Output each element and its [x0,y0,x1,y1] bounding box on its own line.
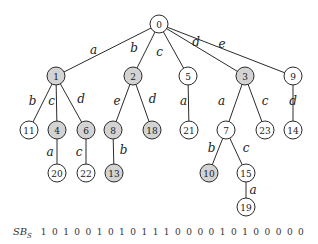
node-21: 21 [180,121,198,139]
node-label-5: 5 [185,72,191,82]
edge-label-0-9: e [218,37,225,51]
node-0: 0 [150,15,168,33]
bitstring-label: SBS [13,226,32,237]
edge-label-8-13: b [120,143,128,157]
edge-label-1-4: c [48,94,55,108]
edge-0-3 [159,24,245,76]
node-22: 22 [77,164,95,182]
node-8: 8 [104,121,122,139]
trie-diagram: abcdebcdedaacdacbbca 0125391146818217231… [0,0,318,244]
edge-labels-layer: abcdebcdedaacdacbbca [29,35,298,197]
node-label-14: 14 [287,126,299,136]
node-label-20: 20 [51,169,63,179]
node-label-10: 10 [203,169,215,179]
node-label-11: 11 [23,126,34,136]
node-18: 18 [143,121,161,139]
bitstring-row: SBS 1 0 1 0 0 1 0 1 0 1 1 1 0 0 0 0 1 0 … [0,226,318,240]
edge-label-1-6: d [77,92,85,106]
node-13: 13 [105,164,123,182]
node-label-1: 1 [53,72,59,82]
node-label-18: 18 [146,126,158,136]
edge-label-0-2: b [130,41,138,55]
node-2: 2 [124,67,142,85]
edge-label-0-3: d [192,35,200,49]
node-label-9: 9 [290,72,296,82]
edge-label-1-11: b [29,94,37,108]
node-label-3: 3 [242,72,248,82]
edge-label-0-1: a [90,43,97,57]
node-19: 19 [237,198,255,216]
node-label-22: 22 [80,169,91,179]
edge-label-2-8: e [113,94,120,108]
node-label-13: 13 [108,169,120,179]
node-9: 9 [284,67,302,85]
node-6: 6 [77,121,95,139]
edge-label-7-10: b [208,141,216,155]
bitstring-label-main: SB [13,226,27,237]
node-1: 1 [47,67,65,85]
edge-0-1 [56,24,159,76]
edge-label-6-22: c [76,145,83,159]
node-label-8: 8 [110,126,116,136]
node-23: 23 [256,121,274,139]
node-label-2: 2 [130,72,136,82]
edge-0-9 [159,24,293,76]
edge-label-5-21: a [180,94,187,108]
node-label-7: 7 [223,126,229,136]
node-label-19: 19 [240,203,252,213]
node-15: 15 [237,164,255,182]
node-label-4: 4 [54,126,60,136]
bitstring-value: 1 0 1 0 0 1 0 1 0 1 1 1 0 0 0 0 1 0 1 0 … [41,227,305,237]
node-label-6: 6 [83,126,89,136]
edge-label-4-20: a [46,145,53,159]
node-label-21: 21 [183,126,194,136]
edge-label-9-14: d [289,94,297,108]
node-20: 20 [48,164,66,182]
node-10: 10 [200,164,218,182]
node-11: 11 [20,121,38,139]
node-label-15: 15 [240,169,252,179]
edge-label-0-5: c [156,45,163,59]
edge-label-3-23: c [262,94,269,108]
edge-label-15-19: a [249,183,256,197]
node-3: 3 [236,67,254,85]
edge-label-2-18: d [149,92,157,106]
edge-label-3-7: a [218,94,225,108]
node-4: 4 [48,121,66,139]
edge-label-7-15: c [243,141,250,155]
node-14: 14 [284,121,302,139]
bitstring-label-sub: S [27,232,32,240]
node-label-0: 0 [156,20,162,30]
node-7: 7 [217,121,235,139]
node-label-23: 23 [259,126,271,136]
node-5: 5 [179,67,197,85]
